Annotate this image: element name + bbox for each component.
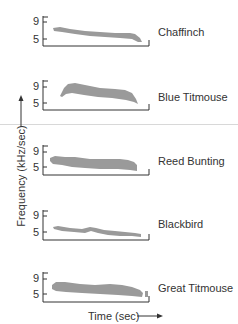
x-axis-arrow-icon bbox=[0, 0, 238, 324]
